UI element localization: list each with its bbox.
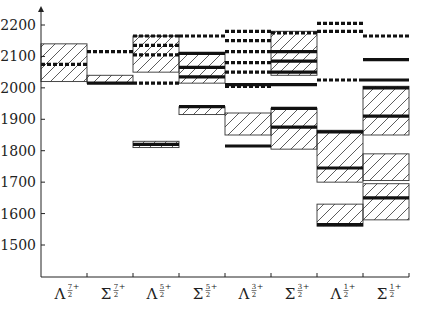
x-category-label: Σ32+ [285,282,310,303]
x-category-label: Λ72+ [54,282,80,303]
x-category-label: Λ32+ [238,282,264,303]
x-label-parity: + [303,282,310,291]
x-label-denominator: 2 [160,291,164,299]
x-label-denominator: 2 [390,291,394,299]
uncertainty-band [363,154,409,181]
uncertainty-band [317,130,363,182]
x-label-parity: + [211,282,218,291]
uncertainty-band [225,113,271,135]
x-label-parity: + [119,282,126,291]
y-tick-label: 1700 [0,174,36,190]
y-tick-label: 2200 [0,17,36,33]
x-label-denominator: 2 [206,291,210,299]
uncertainty-band [363,184,409,220]
x-label-base: Λ [330,285,342,303]
x-label-base: Σ [377,285,388,303]
y-tick-label: 2100 [0,48,36,64]
x-label-parity: + [395,282,402,291]
y-tick-label: 1600 [0,206,36,222]
y-tick-label: 1900 [0,111,36,127]
x-label-parity: + [73,282,80,291]
y-axis-arrow-icon [38,6,44,12]
x-axis-labels: Λ72+Σ72+Λ52+Σ52+Λ32+Σ32+Λ12+Σ12+ [54,282,402,303]
uncertainty-band [363,86,409,135]
x-category-label: Λ12+ [330,282,356,303]
x-label-denominator: 2 [114,291,118,299]
x-category-label: Λ52+ [146,282,172,303]
x-label-denominator: 2 [298,291,302,299]
x-label-numerator: 1 [344,283,348,291]
x-label-parity: + [165,282,172,291]
uncertainty-bands [41,31,409,226]
x-label-denominator: 2 [252,291,256,299]
x-label-numerator: 1 [390,283,394,291]
x-category-label: Σ12+ [377,282,402,303]
mass-spectrum-chart: 15001600170018001900200021002200 Λ72+Σ72… [0,0,421,310]
x-category-label: Σ72+ [101,282,126,303]
y-tick-label: 1800 [0,143,36,159]
x-label-numerator: 5 [160,283,164,291]
x-label-base: Λ [238,285,250,303]
x-label-parity: + [257,282,264,291]
x-label-numerator: 3 [298,283,302,291]
x-label-base: Σ [193,285,204,303]
x-label-numerator: 7 [114,283,118,291]
uncertainty-band [317,204,363,226]
x-label-base: Λ [146,285,158,303]
x-label-denominator: 2 [68,291,72,299]
x-label-base: Λ [54,285,66,303]
x-label-parity: + [349,282,356,291]
x-label-base: Σ [285,285,296,303]
x-category-label: Σ52+ [193,282,218,303]
y-axis-ticks: 15001600170018001900200021002200 [0,17,45,253]
y-tick-label: 1500 [0,237,36,253]
x-label-numerator: 5 [206,283,210,291]
x-label-base: Σ [101,285,112,303]
y-tick-label: 2000 [0,80,36,96]
x-label-numerator: 3 [252,283,256,291]
x-label-denominator: 2 [344,291,348,299]
x-label-numerator: 7 [68,283,72,291]
